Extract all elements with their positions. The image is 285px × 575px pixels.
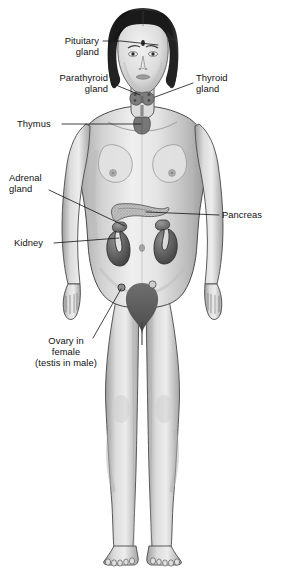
adrenal-gland-label-line-2: gland — [9, 183, 32, 194]
thymus-label-line-1: Thymus — [17, 118, 51, 129]
parathyroid-gland-label-line-1: Parathyroid — [60, 72, 109, 83]
mouth — [136, 75, 150, 80]
thymus-shape — [134, 117, 151, 134]
navel — [139, 245, 144, 252]
head — [108, 8, 179, 94]
thyroid-gland-label-line-1: Thyroid — [196, 72, 228, 83]
anatomy-illustration: PituitaryglandParathyroidglandThyroidgla… — [0, 0, 285, 575]
pancreas-label: Pancreas — [222, 209, 262, 220]
thyroid-gland-label-line-2: gland — [196, 83, 219, 94]
ovary-testis-label-line-2: female — [52, 346, 80, 357]
pancreas-label-line-1: Pancreas — [222, 209, 262, 220]
ovary-testis-label-line-1: Ovary in — [48, 335, 83, 346]
parathyroid-gland-label-line-2: gland — [85, 83, 108, 94]
ovary-testis-label-line-3: (testis in male) — [35, 357, 97, 368]
adrenal-gland-label-line-1: Adrenal — [9, 172, 42, 183]
kidney-label-line-1: Kidney — [14, 237, 43, 248]
endocrine-diagram: PituitaryglandParathyroidglandThyroidgla… — [0, 0, 285, 575]
pituitary-gland-label-line-1: Pituitary — [65, 35, 100, 46]
pituitary-gland-label-line-2: gland — [76, 46, 99, 57]
ovary-shape — [118, 284, 125, 291]
ovary-shape — [149, 281, 156, 288]
kidney-label: Kidney — [14, 237, 43, 248]
thymus-label: Thymus — [17, 118, 51, 129]
